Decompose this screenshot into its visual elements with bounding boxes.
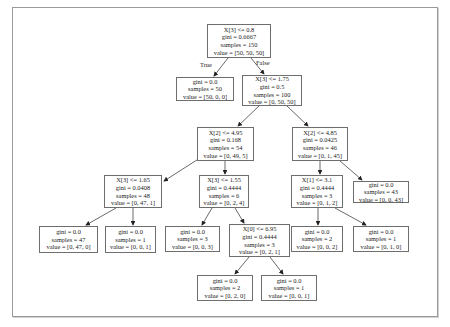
tree-leaf-010: gini = 0.0 samples = 1 value = [0, 1, 0] bbox=[353, 226, 409, 252]
tree-node-x3-1.55: X[3] <= 1.55 gini = 0.4444 samples = 6 v… bbox=[199, 175, 249, 208]
node-gini: gini = 0.6667 bbox=[210, 33, 268, 41]
edge-label-false: False bbox=[256, 59, 270, 66]
node-gini: gini = 0.0 bbox=[42, 228, 95, 236]
node-samples: samples = 1 bbox=[264, 284, 314, 292]
node-gini: gini = 0.5 bbox=[245, 83, 299, 91]
node-value: value = [0, 2, 0] bbox=[200, 292, 250, 300]
node-gini: gini = 0.0 bbox=[294, 228, 340, 236]
node-gini: gini = 0.0 bbox=[168, 228, 217, 236]
tree-node-x3-1.75: X[3] <= 1.75 gini = 0.5 samples = 100 va… bbox=[242, 75, 302, 106]
node-samples: samples = 1 bbox=[356, 235, 406, 243]
node-samples: samples = 2 bbox=[200, 284, 250, 292]
tree-node-x2-4.85: X[2] <= 4.85 gini = 0.0425 samples = 46 … bbox=[292, 127, 348, 161]
node-value: value = [0, 1, 45] bbox=[295, 152, 345, 160]
node-samples: samples = 43 bbox=[356, 188, 406, 196]
node-gini: gini = 0.168 bbox=[200, 136, 251, 144]
node-gini: gini = 0.0408 bbox=[107, 184, 159, 192]
node-split: X[3] <= 1.55 bbox=[202, 176, 246, 184]
tree-node-x1-3.1: X[1] <= 3.1 gini = 0.4444 samples = 3 va… bbox=[291, 175, 343, 208]
node-gini: gini = 0.4444 bbox=[232, 233, 287, 241]
tree-leaf-001-a: gini = 0.0 samples = 1 value = [0, 0, 1] bbox=[105, 226, 156, 253]
node-samples: samples = 54 bbox=[200, 144, 251, 152]
node-value: value = [0, 50, 50] bbox=[245, 98, 299, 106]
tree-node-root: X[3] <= 0.8 gini = 0.6667 samples = 150 … bbox=[207, 24, 271, 58]
node-value: value = [0, 0, 43] bbox=[356, 196, 406, 204]
node-samples: samples = 50 bbox=[179, 85, 231, 93]
node-samples: samples = 3 bbox=[294, 192, 340, 200]
node-split: X[3] <= 0.8 bbox=[210, 26, 268, 34]
node-gini: gini = 0.0 bbox=[200, 277, 250, 285]
node-split: X[3] <= 1.75 bbox=[245, 75, 299, 83]
node-samples: samples = 6 bbox=[202, 192, 246, 200]
node-gini: gini = 0.0 bbox=[108, 228, 153, 236]
node-gini: gini = 0.0425 bbox=[295, 136, 345, 144]
tree-leaf-47: gini = 0.0 samples = 47 value = [0, 47, … bbox=[39, 226, 98, 253]
node-samples: samples = 1 bbox=[108, 236, 153, 244]
node-samples: samples = 47 bbox=[42, 236, 95, 244]
node-gini: gini = 0.0 bbox=[356, 181, 406, 189]
node-value: value = [0, 0, 1] bbox=[264, 292, 314, 300]
node-value: value = [0, 2, 4] bbox=[202, 199, 246, 207]
node-split: X[0] <= 6.95 bbox=[232, 225, 287, 233]
node-samples: samples = 48 bbox=[107, 192, 159, 200]
node-samples: samples = 2 bbox=[294, 235, 340, 243]
node-samples: samples = 150 bbox=[210, 41, 268, 49]
node-value: value = [50, 50, 50] bbox=[210, 49, 268, 57]
node-split: X[2] <= 4.85 bbox=[295, 129, 345, 137]
tree-leaf-43: gini = 0.0 samples = 43 value = [0, 0, 4… bbox=[353, 181, 409, 203]
tree-leaf-003: gini = 0.0 samples = 3 value = [0, 0, 3] bbox=[165, 226, 220, 252]
tree-leaf-setosa: gini = 0.0 samples = 50 value = [50, 0, … bbox=[176, 77, 234, 101]
node-value: value = [0, 47, 1] bbox=[107, 199, 159, 207]
tree-leaf-020: gini = 0.0 samples = 2 value = [0, 2, 0] bbox=[197, 275, 253, 301]
node-split: X[3] <= 1.65 bbox=[107, 176, 159, 184]
tree-node-x0-6.95: X[0] <= 6.95 gini = 0.4444 samples = 3 v… bbox=[229, 224, 290, 257]
tree-leaf-001-b: gini = 0.0 samples = 1 value = [0, 0, 1] bbox=[261, 275, 317, 301]
node-value: value = [0, 2, 1] bbox=[232, 248, 287, 256]
node-samples: samples = 3 bbox=[232, 241, 287, 249]
node-value: value = [0, 1, 0] bbox=[356, 243, 406, 251]
node-value: value = [0, 1, 2] bbox=[294, 199, 340, 207]
node-gini: gini = 0.4444 bbox=[202, 184, 246, 192]
node-value: value = [0, 47, 0] bbox=[42, 243, 95, 251]
node-split: X[2] <= 4.95 bbox=[200, 129, 251, 137]
node-samples: samples = 3 bbox=[168, 235, 217, 243]
node-gini: gini = 0.0 bbox=[179, 78, 231, 86]
node-gini: gini = 0.0 bbox=[264, 277, 314, 285]
tree-leaf-002: gini = 0.0 samples = 2 value = [0, 0, 2] bbox=[291, 226, 343, 252]
tree-node-x3-1.65: X[3] <= 1.65 gini = 0.0408 samples = 48 … bbox=[104, 175, 162, 208]
node-split: X[1] <= 3.1 bbox=[294, 176, 340, 184]
node-value: value = [0, 49, 5] bbox=[200, 152, 251, 160]
edge-label-true: True bbox=[200, 61, 212, 68]
node-samples: samples = 46 bbox=[295, 144, 345, 152]
node-gini: gini = 0.4444 bbox=[294, 184, 340, 192]
tree-node-x2-4.95: X[2] <= 4.95 gini = 0.168 samples = 54 v… bbox=[197, 127, 254, 161]
node-value: value = [0, 0, 2] bbox=[294, 243, 340, 251]
node-value: value = [0, 0, 1] bbox=[108, 243, 153, 251]
node-samples: samples = 100 bbox=[245, 91, 299, 99]
node-value: value = [50, 0, 0] bbox=[179, 93, 231, 101]
node-value: value = [0, 0, 3] bbox=[168, 243, 217, 251]
node-gini: gini = 0.0 bbox=[356, 228, 406, 236]
